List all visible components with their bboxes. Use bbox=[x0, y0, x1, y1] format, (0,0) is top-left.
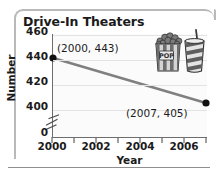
x-tick-2000: 2000 bbox=[35, 140, 69, 152]
soda-cup-rim bbox=[185, 39, 204, 44]
x-tick-2002: 2002 bbox=[79, 140, 113, 152]
x-tick-2006: 2006 bbox=[167, 140, 201, 152]
gridline-420 bbox=[53, 85, 207, 86]
x-axis-label: Year bbox=[52, 154, 207, 166]
data-point-marker-2007 bbox=[202, 99, 209, 106]
annotation-point-2007: (2007, 405) bbox=[126, 107, 188, 119]
y-axis-label: Number bbox=[5, 46, 17, 110]
y-axis-break-icon bbox=[45, 116, 61, 130]
y-tick-400: 400 bbox=[18, 100, 48, 112]
y-tick-420: 420 bbox=[18, 75, 48, 87]
footer-divider bbox=[8, 167, 210, 168]
popcorn-and-soda-icon: POP bbox=[152, 28, 208, 76]
drive-in-theaters-chart-figure: Drive-In Theaters 460 440 420 40 bbox=[0, 0, 218, 180]
x-tick-2004: 2004 bbox=[123, 140, 157, 152]
popcorn-box-label-text: POP bbox=[159, 52, 174, 60]
y-tick-0: 0 bbox=[18, 126, 48, 138]
annotation-point-2000: (2000, 443) bbox=[57, 42, 119, 54]
y-tick-440: 440 bbox=[18, 50, 48, 62]
chart-title: Drive-In Theaters bbox=[23, 14, 144, 29]
